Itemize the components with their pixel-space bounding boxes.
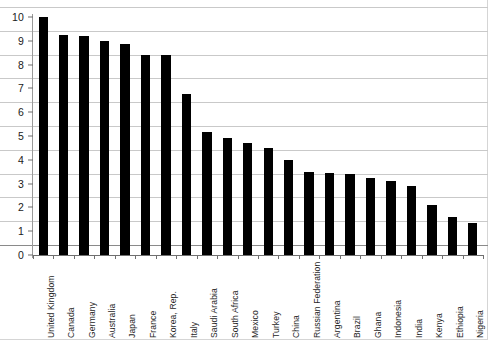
bar-chart-figure: 012345678910 United KingdomCanadaGermany… xyxy=(0,0,488,340)
x-tick-mark xyxy=(483,255,484,259)
x-tick-mark xyxy=(217,255,218,259)
x-tick-label: United Kingdom xyxy=(47,275,56,338)
x-tick-mark xyxy=(299,255,300,259)
x-tick-label: Brazil xyxy=(353,316,362,338)
bar xyxy=(100,41,109,255)
y-tick-label-10: 10 xyxy=(12,11,24,23)
y-tick-label-6: 6 xyxy=(18,106,24,118)
x-tick-mark xyxy=(360,255,361,259)
y-tick-label-2: 2 xyxy=(18,201,24,213)
bar xyxy=(345,174,354,255)
y-tick-label-8: 8 xyxy=(18,59,24,71)
bar xyxy=(59,35,68,255)
x-tick-label: Italy xyxy=(190,322,199,338)
bar xyxy=(182,94,191,255)
x-tick-mark xyxy=(238,255,239,259)
y-tick-label-5: 5 xyxy=(18,130,24,142)
x-tick-label: France xyxy=(149,311,158,338)
x-tick-label: Korea, Rep. xyxy=(169,291,178,338)
bar xyxy=(264,148,273,255)
x-tick-label: South Africa xyxy=(231,290,240,338)
bar xyxy=(79,36,88,255)
bar xyxy=(141,55,150,255)
x-tick-label: Japan xyxy=(128,314,137,338)
x-tick-mark xyxy=(422,255,423,259)
x-axis-tick-marks xyxy=(33,255,483,260)
y-tick-label-0: 0 xyxy=(18,249,24,261)
bar xyxy=(243,143,252,255)
bar xyxy=(325,173,334,255)
bar xyxy=(120,44,129,255)
x-tick-label: Russian Federation xyxy=(313,262,322,338)
x-tick-mark xyxy=(197,255,198,259)
x-tick-mark xyxy=(340,255,341,259)
x-tick-label: Argentina xyxy=(333,300,342,338)
x-tick-label: Turkey xyxy=(272,311,281,338)
x-tick-label: Ghana xyxy=(374,312,383,338)
gridline-10 xyxy=(0,7,488,8)
bar xyxy=(39,17,48,255)
x-tick-mark xyxy=(442,255,443,259)
x-tick-mark xyxy=(94,255,95,259)
y-tick-label-4: 4 xyxy=(18,154,24,166)
x-tick-label: Nigeria xyxy=(476,310,485,338)
x-tick-mark xyxy=(135,255,136,259)
x-tick-mark xyxy=(401,255,402,259)
y-tick-label-7: 7 xyxy=(18,82,24,94)
x-tick-label: Germany xyxy=(88,302,97,338)
x-tick-label: China xyxy=(292,315,301,338)
bar xyxy=(161,55,170,255)
x-tick-label: Saudi Arabia xyxy=(210,288,219,338)
x-tick-mark xyxy=(74,255,75,259)
x-tick-label: Kenya xyxy=(435,313,444,338)
bar xyxy=(284,160,293,255)
y-axis-tick-labels: 012345678910 xyxy=(0,0,32,340)
x-tick-mark xyxy=(156,255,157,259)
bar xyxy=(448,217,457,255)
x-tick-mark xyxy=(381,255,382,259)
x-tick-mark xyxy=(176,255,177,259)
y-tick-label-1: 1 xyxy=(18,225,24,237)
bar xyxy=(223,138,232,255)
bar xyxy=(366,178,375,255)
x-axis-tick-labels: United KingdomCanadaGermanyAustraliaJapa… xyxy=(33,262,483,340)
y-tick-label-3: 3 xyxy=(18,178,24,190)
x-tick-label: Canada xyxy=(67,307,76,338)
x-tick-label: Ethiopia xyxy=(456,306,465,338)
x-tick-label: Australia xyxy=(108,304,117,338)
x-tick-label: Mexico xyxy=(251,310,260,338)
bar xyxy=(202,132,211,255)
bar xyxy=(304,172,313,255)
bar xyxy=(427,205,436,255)
x-tick-label: Indonesia xyxy=(394,300,403,338)
bar xyxy=(468,223,477,255)
bar xyxy=(386,181,395,255)
x-tick-mark xyxy=(319,255,320,259)
x-tick-mark xyxy=(33,255,34,259)
x-tick-mark xyxy=(258,255,259,259)
x-tick-mark xyxy=(53,255,54,259)
y-tick-label-9: 9 xyxy=(18,35,24,47)
x-tick-mark xyxy=(115,255,116,259)
bar xyxy=(407,186,416,255)
x-tick-label: India xyxy=(415,319,424,338)
x-tick-mark xyxy=(278,255,279,259)
x-tick-mark xyxy=(463,255,464,259)
bars-group xyxy=(33,10,483,255)
